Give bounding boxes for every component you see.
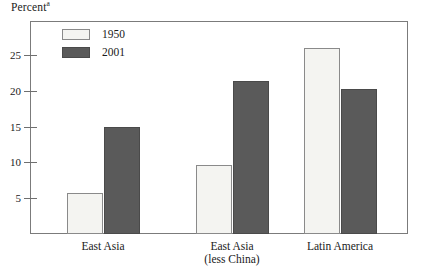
bar-2001-east-asia-less-china- bbox=[233, 81, 269, 234]
y-tick-label: 25 bbox=[0, 49, 21, 60]
y-axis-title: Percenta bbox=[11, 1, 50, 13]
y-tick-mark bbox=[24, 127, 37, 128]
y-tick-label: 15 bbox=[0, 121, 21, 132]
bar-chart-figure: Percenta 510152025 East AsiaEast Asia(le… bbox=[0, 0, 421, 278]
y-tick-label: 20 bbox=[0, 85, 21, 96]
x-axis-label-line: (less China) bbox=[162, 253, 302, 266]
y-tick-label: 10 bbox=[0, 156, 21, 167]
bar-1950-east-asia-less-china- bbox=[196, 165, 232, 234]
y-tick-label: 5 bbox=[0, 192, 21, 203]
bar-2001-east-asia bbox=[104, 127, 140, 234]
bar-1950-latin-america bbox=[304, 48, 340, 234]
bar-1950-east-asia bbox=[67, 193, 103, 234]
x-axis-label-0: East Asia bbox=[33, 240, 173, 253]
x-axis-label-line: Latin America bbox=[270, 240, 410, 253]
y-tick-mark bbox=[24, 91, 37, 92]
legend-label-1950: 1950 bbox=[102, 27, 125, 42]
legend-label-2001: 2001 bbox=[102, 45, 125, 60]
y-tick-mark bbox=[24, 55, 37, 56]
y-tick-mark bbox=[24, 198, 37, 199]
x-axis-label-2: Latin America bbox=[270, 240, 410, 253]
x-axis-label-line: East Asia bbox=[33, 240, 173, 253]
bar-2001-latin-america bbox=[341, 89, 377, 234]
y-tick-mark bbox=[24, 162, 37, 163]
y-axis-title-superscript: a bbox=[47, 0, 50, 8]
legend-swatch-2001 bbox=[62, 47, 90, 58]
legend-swatch-1950 bbox=[62, 29, 90, 40]
y-axis-title-text: Percent bbox=[11, 1, 47, 13]
